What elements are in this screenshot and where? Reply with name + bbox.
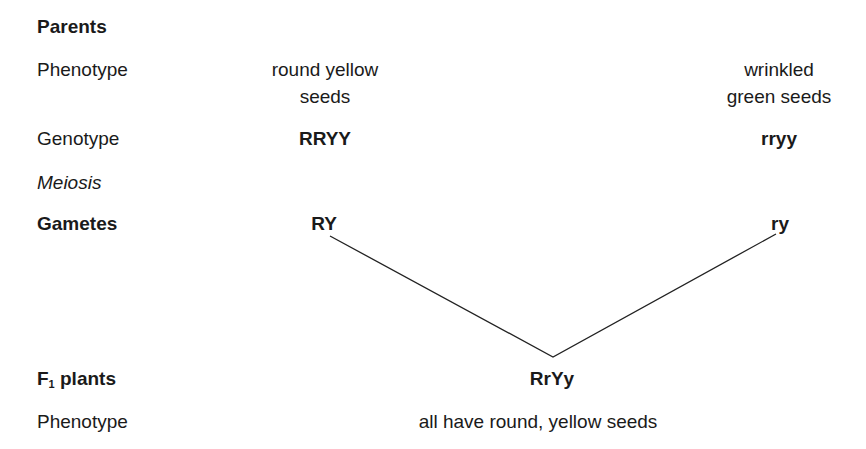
phenotype-label: Phenotype [37,59,128,81]
meiosis-label: Meiosis [37,172,101,194]
right-phenotype-line1: wrinkled [744,59,814,81]
gametes-label: Gametes [37,213,117,235]
left-phenotype-line2: seeds [300,86,351,108]
f1-phenotype: all have round, yellow seeds [419,411,658,433]
right-phenotype-line2: green seeds [727,86,832,108]
f1-phenotype-label: Phenotype [37,411,128,433]
right-gamete: ry [771,213,789,235]
left-gamete: RY [311,213,337,235]
f1-label: F1 plants [37,368,116,395]
right-genotype: rryy [761,128,797,150]
cross-lines [0,0,866,449]
left-phenotype-line1: round yellow [272,59,379,81]
left-genotype: RRYY [299,128,351,150]
parents-heading: Parents [37,16,107,38]
genotype-label: Genotype [37,128,119,150]
f1-genotype: RrYy [530,368,574,390]
